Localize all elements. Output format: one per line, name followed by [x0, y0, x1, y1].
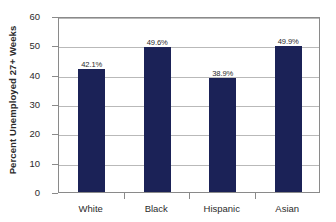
bar-chart: Percent Unemployed 27+ Weeks 01020304050… — [0, 0, 336, 222]
y-axis-tick-label: 50 — [18, 40, 40, 52]
y-axis-tick-group: 0102030405060 — [0, 17, 52, 193]
y-axis-tick-label: 10 — [18, 158, 40, 170]
bar[interactable] — [144, 47, 171, 192]
y-axis-tick-mark — [52, 193, 58, 194]
bar-value-label: 42.1% — [68, 60, 116, 69]
y-axis-tick-label: 60 — [18, 11, 40, 23]
bar[interactable] — [78, 69, 105, 192]
x-axis-tick-mark — [189, 193, 190, 199]
bar[interactable] — [209, 78, 236, 192]
x-axis-tick-mark — [124, 193, 125, 199]
y-axis-tick-label: 30 — [18, 99, 40, 111]
bar[interactable] — [275, 46, 302, 192]
gridline — [59, 18, 319, 19]
plot-area: 42.1%49.6%38.9%49.9% — [58, 17, 320, 193]
y-axis-tick-label: 0 — [18, 187, 40, 199]
x-axis-tick-label: Asian — [247, 202, 327, 215]
y-axis-tick-label: 40 — [18, 70, 40, 82]
bar-value-label: 49.9% — [264, 37, 312, 46]
bar-value-label: 49.6% — [133, 38, 181, 47]
bar-value-label: 38.9% — [199, 69, 247, 78]
x-axis-tick-mark — [255, 193, 256, 199]
y-axis-tick-label: 20 — [18, 128, 40, 140]
